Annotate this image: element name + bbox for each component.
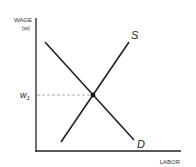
supply-label: S	[131, 29, 139, 41]
y-axis-label: WAGE	[14, 17, 32, 23]
x-axis-label: LABOR	[160, 159, 181, 165]
demand-label: D	[137, 138, 145, 150]
labor-market-diagram: WAGE (w) LABOR w1 S D	[0, 0, 196, 167]
supply-curve	[61, 42, 129, 142]
equilibrium-wage-label: w1	[20, 90, 30, 101]
y-axis-sublabel: (w)	[22, 25, 30, 31]
demand-curve	[45, 42, 134, 140]
equilibrium-point	[91, 93, 96, 98]
